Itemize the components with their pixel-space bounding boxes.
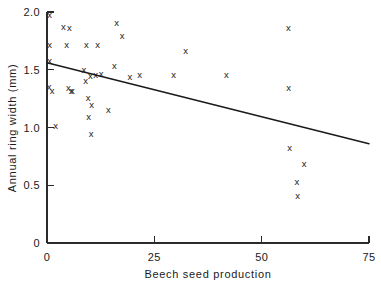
x-tick-label-1: 25: [148, 251, 161, 263]
data-point: x: [120, 30, 125, 41]
data-point: x: [294, 176, 299, 187]
regression-line: [47, 63, 369, 144]
data-point: x: [70, 85, 75, 96]
y-axis-title: Annual ring width (mm): [6, 64, 18, 193]
chart-canvas: 00.51.01.52.0 0255075 xxxxxxxxxxxxxxxxxx…: [0, 0, 381, 287]
data-point: x: [89, 99, 94, 110]
data-point-group: xxxxxxxxxxxxxxxxxxxxxxxxxxxxxxxxxxxxxx: [47, 9, 307, 201]
data-point: x: [95, 39, 100, 50]
y-tick-label-1: 0.5: [24, 179, 41, 191]
data-point: x: [286, 82, 291, 93]
y-tick-label-3: 1.5: [24, 64, 41, 76]
data-point: x: [47, 9, 52, 20]
data-point: x: [302, 158, 307, 169]
data-point: x: [171, 69, 176, 80]
data-point: x: [89, 128, 94, 139]
y-tick-label-0: 0: [33, 237, 40, 249]
data-point: x: [67, 22, 72, 33]
data-point: x: [127, 71, 132, 82]
x-tick-label-3: 75: [362, 251, 375, 263]
data-point: x: [86, 111, 91, 122]
data-point: x: [50, 85, 55, 96]
data-point: x: [47, 39, 52, 50]
data-point: x: [106, 104, 111, 115]
y-tick-label-2: 1.0: [24, 122, 41, 134]
data-point: x: [287, 142, 292, 153]
x-tick-label-2: 50: [255, 251, 268, 263]
y-axis-tick-labels: 00.51.01.52.0: [24, 6, 41, 249]
data-point: x: [64, 39, 69, 50]
x-axis-title: Beech seed production: [144, 268, 271, 280]
data-point: x: [286, 22, 291, 33]
data-point: x: [84, 39, 89, 50]
data-point: x: [183, 45, 188, 56]
data-point: x: [112, 60, 117, 71]
x-tick-label-0: 0: [44, 251, 51, 263]
data-point: x: [224, 69, 229, 80]
data-point: x: [295, 190, 300, 201]
data-point: x: [61, 21, 66, 32]
x-axis-tick-labels: 0255075: [44, 251, 376, 263]
y-tick-label-4: 2.0: [24, 6, 41, 18]
scatter-plot-figure: 00.51.01.52.0 0255075 xxxxxxxxxxxxxxxxxx…: [0, 0, 381, 287]
data-point: x: [53, 120, 58, 131]
x-axis-ticks: [47, 236, 369, 243]
data-point: x: [82, 64, 87, 75]
data-point: x: [114, 17, 119, 28]
data-point: x: [137, 69, 142, 80]
